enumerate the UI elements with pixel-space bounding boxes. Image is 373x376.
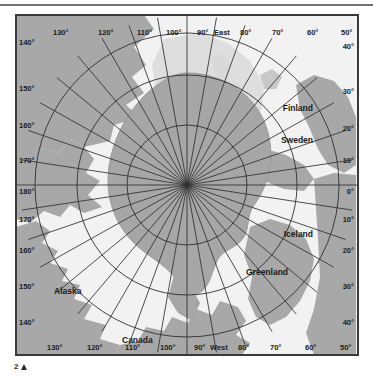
- meridian-label: 50°: [341, 28, 352, 37]
- meridian-label: 130°: [47, 343, 63, 352]
- meridian-label: 180°: [19, 187, 35, 196]
- meridian-label: 100°: [160, 343, 176, 352]
- meridian-label: 50°: [340, 343, 351, 352]
- meridian-label: 0°: [347, 187, 354, 196]
- meridian-label: 10°: [343, 156, 354, 165]
- meridian-label: 100°: [166, 28, 182, 37]
- meridian-label: 90°: [197, 28, 208, 37]
- meridian-label: 150°: [19, 282, 35, 291]
- meridian-label: 80°: [240, 28, 251, 37]
- place-label-iceland: Iceland: [284, 229, 313, 239]
- meridian-label: 40°: [343, 42, 354, 51]
- meridian-label: 160°: [19, 121, 35, 130]
- hemisphere-label-west: West: [210, 343, 228, 352]
- meridian-label: 30°: [343, 282, 354, 291]
- top-divider-rule: [0, 4, 373, 6]
- meridian-label: 150°: [19, 84, 35, 93]
- page-root: 130° 120° 110° 100° 90° East 80° 70° 60°…: [0, 0, 373, 376]
- map-svg: 130° 120° 110° 100° 90° East 80° 70° 60°…: [14, 13, 360, 357]
- meridian-label: 40°: [343, 318, 354, 327]
- place-label-greenland: Greenland: [246, 267, 288, 277]
- meridian-label: 60°: [307, 28, 318, 37]
- meridian-label: 170°: [19, 215, 35, 224]
- meridian-labels-bottom: 130° 120° 110° 100° 90° West 80° 70° 60°…: [47, 343, 351, 352]
- meridian-label: 140°: [19, 38, 35, 47]
- meridian-label: 130°: [53, 28, 69, 37]
- meridian-label: 160°: [19, 246, 35, 255]
- meridian-label: 20°: [343, 124, 354, 133]
- meridian-label: 80°: [238, 343, 249, 352]
- figure-caption: 2: [14, 360, 134, 374]
- meridian-label: 10°: [343, 215, 354, 224]
- meridian-label: 170°: [19, 156, 35, 165]
- arctic-polar-map-figure: 130° 120° 110° 100° 90° East 80° 70° 60°…: [14, 13, 360, 357]
- meridian-label: 70°: [270, 343, 281, 352]
- meridian-label: 30°: [343, 87, 354, 96]
- hemisphere-label-east: East: [214, 28, 230, 37]
- place-label-sweden: Sweden: [281, 135, 313, 145]
- triangle-up-icon: [21, 364, 27, 370]
- meridian-label: 120°: [87, 343, 103, 352]
- meridian-label: 70°: [272, 28, 283, 37]
- meridian-label: 60°: [305, 343, 316, 352]
- meridian-label: 140°: [19, 318, 35, 327]
- meridian-label: 110°: [137, 28, 152, 37]
- place-label-finland: Finland: [283, 103, 313, 113]
- meridian-label: 90°: [194, 343, 205, 352]
- figure-number: 2: [14, 363, 18, 371]
- meridian-label: 120°: [98, 28, 114, 37]
- place-label-alaska: Alaska: [54, 286, 82, 296]
- meridian-labels-top: 130° 120° 110° 100° 90° East 80° 70° 60°…: [53, 28, 352, 37]
- meridian-label: 20°: [343, 246, 354, 255]
- place-label-canada: Canada: [122, 335, 153, 345]
